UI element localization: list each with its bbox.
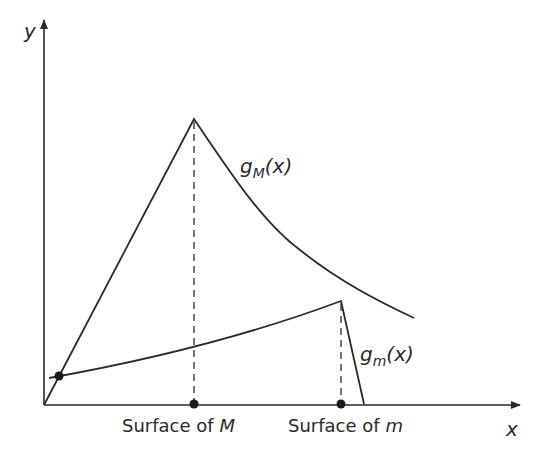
g-m-curve bbox=[49, 301, 364, 404]
g-M-label: gM(x) bbox=[240, 154, 292, 181]
gravity-diagram: y x gM(x) gm(x) Surface of M Surface of … bbox=[0, 0, 546, 449]
g-M-curve bbox=[44, 119, 414, 405]
x-axis-label: x bbox=[505, 417, 518, 441]
surface-M-point bbox=[190, 400, 199, 409]
y-axis-label: y bbox=[23, 19, 37, 43]
intersection-point bbox=[55, 372, 64, 381]
surface-M-label: Surface of M bbox=[122, 415, 235, 436]
g-m-label: gm(x) bbox=[360, 342, 414, 369]
surface-m-point bbox=[337, 400, 346, 409]
surface-m-label: Surface of m bbox=[288, 415, 403, 436]
